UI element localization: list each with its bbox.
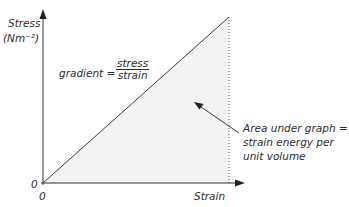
y-origin-label: 0 — [31, 178, 38, 190]
annotation-line-3: unit volume — [243, 150, 306, 162]
gradient-fraction: stress strain — [116, 58, 149, 81]
x-origin-label: 0 — [39, 190, 46, 202]
annotation-line-2: strain energy per — [243, 136, 334, 148]
fraction-denominator: strain — [118, 70, 148, 81]
y-axis-unit: (Nm⁻²) — [3, 32, 39, 44]
annotation-line-1: Area under graph = — [243, 122, 348, 134]
x-axis-arrowhead-icon — [235, 180, 245, 187]
gradient-label: gradient = — [59, 67, 115, 79]
y-axis-label: Stress — [8, 17, 41, 29]
x-axis-label: Strain — [194, 190, 225, 202]
stress-strain-graph — [0, 0, 349, 207]
